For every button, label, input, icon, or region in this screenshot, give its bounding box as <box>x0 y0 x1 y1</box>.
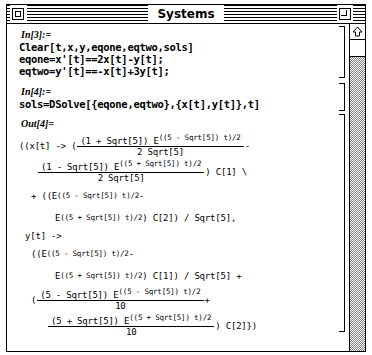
y-arrow: y[t] -> <box>25 231 62 241</box>
y-open: ((E <box>31 249 47 259</box>
up-arrow-icon <box>352 26 363 37</box>
window-title: Systems <box>7 7 365 21</box>
fraction-numerator: (5 - Sqrt[5]) E((5 - Sqrt[5]) t)/2 <box>37 290 203 300</box>
after-fraction-2: ) C[1] \ <box>205 167 247 177</box>
fraction-numerator: (1 - Sqrt[5]) E((5 + Sqrt[5]) t)/2 <box>38 162 204 172</box>
vertical-scrollbar[interactable] <box>349 24 365 351</box>
window-body: In[3]:= Clear[t,x,y,eqone,eqtwo,sols] eq… <box>7 24 365 351</box>
fraction-2: (1 - Sqrt[5]) E((5 + Sqrt[5]) t)/2 2 Sqr… <box>38 162 204 183</box>
fraction-1: (1 + Sqrt[5]) E((5 - Sqrt[5]) t)/2 2 Sqr… <box>77 136 243 157</box>
code-line: eqone=x'[t]==2x[t]-y[t]; <box>7 53 349 65</box>
cell-label-in3: In[3]:= <box>7 28 349 41</box>
cell-label-in4: In[4]:= <box>7 85 349 98</box>
output-line: y[t] -> <box>7 229 349 243</box>
code-line: eqtwo=y'[t]==-x[t]+3y[t]; <box>7 65 349 77</box>
scrollbar-track[interactable] <box>350 40 365 351</box>
numerator-text: (1 - Sqrt[5]) E <box>41 162 119 172</box>
exponent: ((5 + Sqrt[5]) t)/2 <box>129 313 211 322</box>
fraction-denominator: 10 <box>112 301 128 311</box>
fraction-numerator: (1 + Sqrt[5]) E((5 - Sqrt[5]) t)/2 <box>77 136 243 146</box>
cell-label-out4: Out[4]= <box>7 117 349 130</box>
exponent: ((5 - Sqrt[5]) t)/2 <box>159 133 241 142</box>
output-line: + ((E((5 - Sqrt[5]) t)/2 - <box>7 185 349 207</box>
paren-open: ( <box>31 295 36 305</box>
output-line: ( (5 - Sqrt[5]) E((5 - Sqrt[5]) t)/2 10 … <box>7 287 349 313</box>
plus-open: + ((E <box>31 191 57 201</box>
fraction-denominator: 2 Sqrt[5] <box>95 173 148 183</box>
output-line: (5 + Sqrt[5]) E((5 + Sqrt[5]) t)/2 10 ) … <box>7 313 349 339</box>
output-line: ((E((5 - Sqrt[5]) t)/2 - <box>7 243 349 265</box>
cell-bracket[interactable] <box>339 114 345 332</box>
numerator-text: (1 + Sqrt[5]) E <box>80 136 158 146</box>
fraction-4: (5 + Sqrt[5]) E((5 + Sqrt[5]) t)/2 10 <box>48 316 214 337</box>
input-cell-3[interactable]: In[3]:= Clear[t,x,y,eqone,eqtwo,sols] eq… <box>7 24 349 77</box>
fraction-numerator: (5 + Sqrt[5]) E((5 + Sqrt[5]) t)/2 <box>48 316 214 326</box>
fraction-3: (5 - Sqrt[5]) E((5 - Sqrt[5]) t)/2 10 <box>37 290 203 311</box>
minus-operator: - <box>129 249 134 259</box>
minus-operator: - <box>245 141 250 151</box>
code-line: Clear[t,x,y,eqone,eqtwo,sols] <box>7 41 349 53</box>
code-line: sols=DSolve[{eqone,eqtwo},{x[t],y[t]},t] <box>7 98 349 110</box>
output-line: E((5 + Sqrt[5]) t)/2 ) C[2]) / Sqrt[5], <box>7 207 349 229</box>
after-c2: ) C[2]) / Sqrt[5], <box>142 213 236 223</box>
notebook-window: Systems In[3]:= Clear[t,x,y,eqone,eqtwo,… <box>6 4 366 352</box>
numerator-text: (5 + Sqrt[5]) E <box>51 316 129 326</box>
scroll-up-arrow[interactable] <box>350 24 365 40</box>
scrollbar-thumb[interactable] <box>350 40 365 57</box>
plus-operator: + <box>205 295 210 305</box>
fraction-denominator: 2 Sqrt[5] <box>134 147 187 157</box>
exponent: ((5 + Sqrt[5]) t)/2 <box>119 159 201 168</box>
cell-bracket[interactable] <box>339 83 345 111</box>
after-c1: ) C[1]) / Sqrt[5] + <box>142 271 241 281</box>
input-cell-4[interactable]: In[4]:= sols=DSolve[{eqone,eqtwo},{x[t],… <box>7 77 349 110</box>
output-line: ((x[t] -> ( (1 + Sqrt[5]) E((5 - Sqrt[5]… <box>7 133 349 159</box>
minus-operator: - <box>139 191 144 201</box>
output-line: (1 - Sqrt[5]) E((5 + Sqrt[5]) t)/2 2 Sqr… <box>7 159 349 185</box>
output-line: E((5 + Sqrt[5]) t)/2 ) C[1]) / Sqrt[5] + <box>7 265 349 287</box>
fraction-denominator: 10 <box>123 327 139 337</box>
notebook-content[interactable]: In[3]:= Clear[t,x,y,eqone,eqtwo,sols] eq… <box>7 24 349 351</box>
exponent: ((5 - Sqrt[5]) t)/2 <box>119 287 201 296</box>
numerator-text: (5 - Sqrt[5]) E <box>40 290 118 300</box>
after-fraction-4: ) C[2]}) <box>215 321 257 331</box>
cell-bracket[interactable] <box>339 26 345 78</box>
output-open: ((x[t] -> ( <box>19 141 76 151</box>
output-cell-4[interactable]: Out[4]= ((x[t] -> ( (1 + Sqrt[5]) E((5 -… <box>7 110 349 339</box>
window-title-bar[interactable]: Systems <box>7 5 365 24</box>
